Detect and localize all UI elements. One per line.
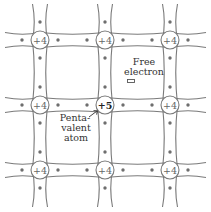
electron-dot — [186, 38, 189, 41]
crystal-lattice-diagram: +4+4+4+4+5+4+4+4+4 Free electron Penta- … — [0, 0, 211, 212]
bond-line — [40, 98, 105, 100]
electron-dot — [168, 121, 171, 124]
bond-line — [40, 33, 105, 35]
electron-dot — [56, 38, 59, 41]
electron-dot — [103, 20, 106, 23]
free-electron-annotation: Free electron — [124, 56, 164, 83]
electron-dot — [85, 168, 88, 171]
host-atom: +4 — [96, 31, 114, 49]
bond-line — [105, 111, 170, 113]
atom-charge-label: +4 — [163, 100, 177, 111]
electron-dot — [38, 85, 41, 88]
bond-line — [105, 46, 170, 48]
bond-line — [33, 105, 35, 170]
electron-dot — [20, 168, 23, 171]
atoms: +4+4+4+4+5+4+4+4+4 — [31, 31, 179, 179]
bond-line — [40, 163, 105, 165]
atom-charge-label: +4 — [98, 35, 112, 46]
bond-line — [176, 105, 178, 170]
bond-line — [98, 105, 100, 170]
host-atom: +4 — [161, 96, 179, 114]
host-atom: +4 — [96, 161, 114, 179]
bond-line — [176, 40, 178, 105]
electron-dot — [168, 56, 171, 59]
bond-line — [33, 40, 35, 105]
atom-charge-label: +4 — [163, 35, 177, 46]
host-atom: +4 — [31, 161, 49, 179]
bond-line — [105, 98, 170, 100]
electron-dot — [38, 121, 41, 124]
bond-line — [46, 40, 48, 105]
bond-line — [111, 105, 113, 170]
electron-dot — [168, 150, 171, 153]
bond-line — [111, 40, 113, 105]
host-atom: +4 — [31, 96, 49, 114]
pentavalent-label-line3: atom — [64, 132, 88, 143]
electron-dot — [38, 186, 41, 189]
free-electron-marker — [128, 80, 135, 83]
electron-dot — [121, 38, 124, 41]
atom-charge-label: +4 — [33, 100, 47, 111]
electron-dot — [103, 121, 106, 124]
bond-line — [40, 46, 105, 48]
pentavalent-annotation: Penta- valent atom — [60, 111, 98, 143]
electron-dot — [168, 85, 171, 88]
electron-dot — [56, 168, 59, 171]
electron-dot — [168, 20, 171, 23]
atom-charge-label: +4 — [98, 165, 112, 176]
electron-dot — [121, 103, 124, 106]
electron-dot — [168, 186, 171, 189]
bond-line — [105, 163, 170, 165]
electron-dot — [38, 150, 41, 153]
electron-dot — [38, 56, 41, 59]
electron-dot — [103, 150, 106, 153]
electron-dot — [150, 168, 153, 171]
bond-line — [46, 105, 48, 170]
free-electron-label-line2: electron — [124, 66, 164, 77]
host-atom: +4 — [161, 161, 179, 179]
electron-dot — [150, 38, 153, 41]
host-atom: +4 — [31, 31, 49, 49]
electron-dot — [85, 38, 88, 41]
bond-line — [40, 176, 105, 178]
electron-dot — [186, 168, 189, 171]
pentavalent-atom: +5 — [96, 96, 114, 114]
electron-dot — [121, 168, 124, 171]
atom-charge-label: +4 — [33, 165, 47, 176]
atom-charge-label: +4 — [163, 165, 177, 176]
electron-dot — [20, 38, 23, 41]
electron-dot — [103, 56, 106, 59]
electron-dot — [56, 103, 59, 106]
electron-dot — [20, 103, 23, 106]
bond-line — [98, 40, 100, 105]
electron-dot — [38, 20, 41, 23]
bond-line — [163, 105, 165, 170]
electron-dot — [186, 103, 189, 106]
electron-dot — [150, 103, 153, 106]
bond-line — [105, 33, 170, 35]
host-atom: +4 — [161, 31, 179, 49]
bond-line — [105, 176, 170, 178]
electron-dot — [85, 103, 88, 106]
atom-charge-label: +4 — [33, 35, 47, 46]
electron-dot — [103, 186, 106, 189]
atom-charge-label: +5 — [98, 100, 113, 111]
electron-dot — [103, 85, 106, 88]
